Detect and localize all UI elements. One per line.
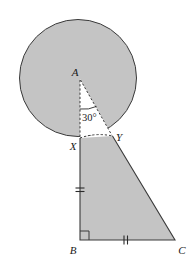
- label-point-x: X: [69, 140, 78, 152]
- figure-svg: A X Y B C 30°: [0, 0, 195, 262]
- triangle-fill: [80, 136, 175, 240]
- label-point-y: Y: [116, 131, 124, 143]
- geometry-figure: A X Y B C 30°: [0, 0, 195, 262]
- label-point-c: C: [178, 244, 186, 256]
- label-angle-30: 30°: [82, 112, 97, 123]
- circle-shape: [20, 20, 137, 137]
- label-point-a: A: [71, 66, 79, 78]
- label-point-b: B: [70, 244, 77, 256]
